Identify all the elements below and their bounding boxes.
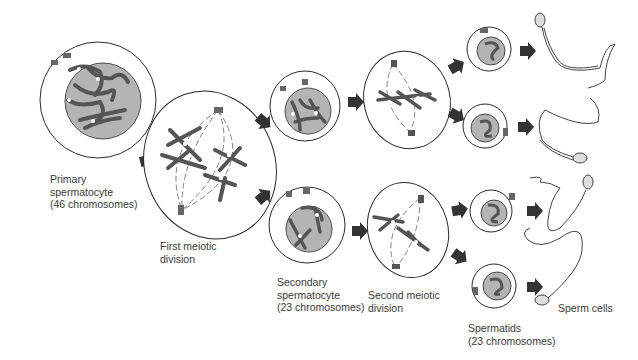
label-primary-spermatocyte: Primary spermatocyte (46 chromosomes) bbox=[50, 173, 138, 211]
label-line: division bbox=[160, 253, 217, 266]
label-line: Spermatids bbox=[468, 322, 556, 335]
label-line: (23 chromosomes) bbox=[277, 301, 365, 314]
label-line: Secondary bbox=[277, 276, 365, 289]
label-line: (23 chromosomes) bbox=[468, 335, 556, 348]
second-division-top bbox=[353, 42, 461, 159]
label-spermatids: Spermatids (23 chromosomes) bbox=[468, 322, 556, 347]
label-line: division bbox=[368, 302, 440, 315]
second-division-bottom bbox=[357, 173, 459, 286]
label-secondary-spermatocyte: Secondary spermatocyte (23 chromosomes) bbox=[277, 276, 365, 314]
primary-spermatocyte-cell bbox=[40, 42, 156, 158]
sperm-1 bbox=[535, 13, 615, 88]
label-line: Primary bbox=[50, 173, 138, 186]
sperm-3 bbox=[530, 175, 593, 231]
sperm-4 bbox=[524, 228, 582, 305]
secondary-spermatocyte-bottom bbox=[269, 187, 345, 263]
secondary-spermatocyte-top bbox=[270, 71, 340, 141]
spermatid-3 bbox=[470, 190, 515, 232]
label-line: spermatocyte bbox=[277, 289, 365, 302]
label-line: (46 chromosomes) bbox=[50, 198, 138, 211]
spermatid-4 bbox=[472, 264, 516, 308]
label-second-meiotic-division: Second meiotic division bbox=[368, 289, 440, 314]
sperm-cells bbox=[524, 13, 615, 305]
label-line: Second meiotic bbox=[368, 289, 440, 302]
spermatid-2 bbox=[463, 104, 508, 148]
label-line: Sperm cells bbox=[558, 302, 613, 315]
label-sperm-cells: Sperm cells bbox=[558, 302, 613, 315]
label-first-meiotic-division: First meiotic division bbox=[160, 240, 217, 265]
label-line: spermatocyte bbox=[50, 186, 138, 199]
sperm-2 bbox=[539, 98, 599, 163]
label-line: First meiotic bbox=[160, 240, 217, 253]
spermatid-1 bbox=[467, 27, 511, 71]
